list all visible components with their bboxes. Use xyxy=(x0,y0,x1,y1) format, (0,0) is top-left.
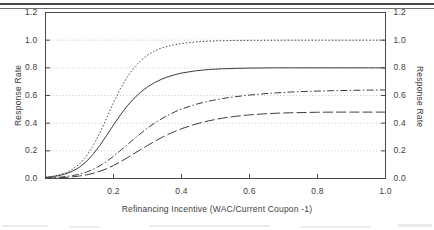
y-tick-label-right: 0.0 xyxy=(394,174,420,183)
y-axis-right-title: Response Rate xyxy=(415,66,424,127)
scan-artifact xyxy=(300,226,370,228)
y-tick-label-right: 0.2 xyxy=(394,146,420,155)
scan-artifact xyxy=(2,225,48,227)
scan-artifact xyxy=(398,224,432,227)
y-axis-left-title: Response Rate xyxy=(14,64,23,125)
y-tick-label-left: 1.2 xyxy=(12,8,38,17)
curve-slowest-response xyxy=(46,112,386,178)
data-curves xyxy=(46,40,386,178)
scan-artifact xyxy=(150,225,270,227)
y-tick-label-left: 1.0 xyxy=(12,36,38,45)
scan-artifact xyxy=(70,226,100,228)
x-tick-label: 0.8 xyxy=(301,187,335,196)
chart-figure: 0.00.20.40.60.81.01.2 0.00.20.40.60.81.0… xyxy=(0,0,434,230)
x-tick-label: 0.4 xyxy=(165,187,199,196)
y-tick-label-left: 0.0 xyxy=(12,174,38,183)
curve-base-response xyxy=(46,68,386,178)
x-tick-label: 0.2 xyxy=(97,187,131,196)
plot-canvas xyxy=(0,0,434,230)
curve-fastest-response xyxy=(46,40,386,177)
y-tick-label-right: 1.0 xyxy=(394,36,420,45)
curve-slow-response xyxy=(46,90,386,178)
gridlines xyxy=(47,40,385,178)
x-axis-title: Refinancing Incentive (WAC/Current Coupo… xyxy=(0,205,434,214)
x-tick-label: 1.0 xyxy=(369,187,403,196)
y-tick-label-right: 1.2 xyxy=(394,8,420,17)
y-tick-label-left: 0.2 xyxy=(12,146,38,155)
x-tick-label: 0.6 xyxy=(233,187,267,196)
